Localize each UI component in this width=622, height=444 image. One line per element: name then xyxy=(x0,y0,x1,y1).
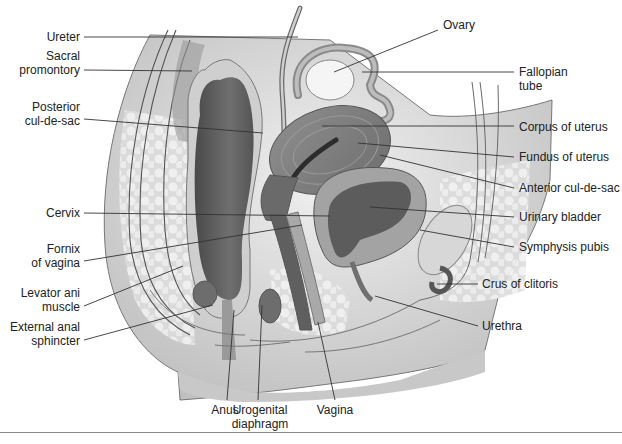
label-crus-of-clitoris: Crus of clitoris xyxy=(482,277,558,291)
label-text: Vagina xyxy=(317,403,353,417)
label-text: Urinary bladder xyxy=(519,210,601,224)
label-text: Symphysis pubis xyxy=(519,240,609,254)
label-fornix-of-vagina: Fornix of vagina xyxy=(0,242,80,270)
label-urethra: Urethra xyxy=(482,319,522,333)
label-anterior-cul-de-sac: Anterior cul-de-sac xyxy=(519,181,620,195)
label-text: Cervix xyxy=(46,206,80,220)
label-cervix: Cervix xyxy=(0,206,80,220)
label-text-line2: sphincter xyxy=(0,334,80,348)
label-urinary-bladder: Urinary bladder xyxy=(519,210,601,224)
label-symphysis-pubis: Symphysis pubis xyxy=(519,240,609,254)
label-text: Ureter xyxy=(47,30,80,44)
label-text-line2: diaphragm xyxy=(230,417,290,431)
label-text-line2: of vagina xyxy=(0,256,80,270)
label-text: Corpus of uterus xyxy=(519,120,608,134)
label-text-line1: External anal xyxy=(0,320,80,334)
label-text-line2: cul-de-sac xyxy=(0,114,80,128)
label-text: Crus of clitoris xyxy=(482,277,558,291)
external-anal-sphincter-shape xyxy=(193,281,217,307)
label-text-line1: Posterior xyxy=(0,100,80,114)
label-posterior-cul-de-sac: Posterior cul-de-sac xyxy=(0,100,80,128)
label-corpus-of-uterus: Corpus of uterus xyxy=(519,120,608,134)
label-fallopian-tube: Fallopian tube xyxy=(519,65,568,93)
label-levator-ani-muscle: Levator ani muscle xyxy=(0,286,80,314)
label-text: Fundus of uterus xyxy=(519,150,609,164)
label-sacral-promontory: Sacral promontory xyxy=(0,49,80,77)
label-text-line1: Urogenital xyxy=(230,403,290,417)
label-ureter: Ureter xyxy=(0,30,80,44)
label-text-line1: Fallopian xyxy=(519,65,568,79)
label-text-line2: muscle xyxy=(0,300,80,314)
label-text-line2: promontory xyxy=(0,63,80,77)
label-external-anal-sphincter: External anal sphincter xyxy=(0,320,80,348)
anatomy-figure: Ureter Sacral promontory Posterior cul-d… xyxy=(0,0,622,444)
label-text-line1: Levator ani xyxy=(0,286,80,300)
label-urogenital-diaphragm: Urogenital diaphragm xyxy=(230,403,290,431)
label-fundus-of-uterus: Fundus of uterus xyxy=(519,150,609,164)
label-ovary: Ovary xyxy=(443,18,475,32)
label-text: Anterior cul-de-sac xyxy=(519,181,620,195)
label-text: Ovary xyxy=(443,18,475,32)
label-text-line2: tube xyxy=(519,79,568,93)
label-vagina: Vagina xyxy=(312,403,358,417)
label-text-line1: Fornix xyxy=(0,242,80,256)
bottom-divider xyxy=(0,432,622,433)
label-text: Urethra xyxy=(482,319,522,333)
label-text-line1: Sacral xyxy=(0,49,80,63)
